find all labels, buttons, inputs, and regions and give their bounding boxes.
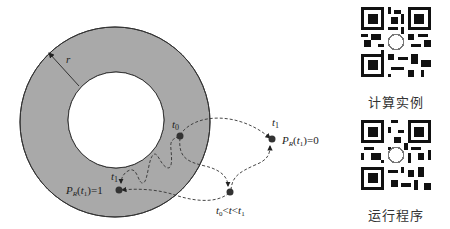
qr-code-run-program[interactable] [361, 120, 431, 190]
qr-label-run-program: 运行程序 [351, 205, 441, 224]
radius-label: r [66, 53, 71, 65]
point-inside-t1 [116, 187, 123, 194]
qr-code-example[interactable] [361, 7, 431, 77]
path-mid-to-outside [231, 146, 270, 190]
prob-outside: PR(t1)=0 [281, 134, 319, 148]
point-t0 [177, 133, 184, 140]
point-outside-t1 [269, 136, 276, 143]
point-mid [227, 189, 234, 196]
label-mid-interval: t0<t<t1 [216, 204, 245, 218]
inner-circle [68, 72, 164, 168]
annulus-diagram: r t0 t1 PR(t1)=0 t1 PR(t1)=1 t0<t<t1 [0, 0, 330, 229]
qr-label-example: 计算实例 [351, 92, 441, 111]
label-outside-t1: t1 [272, 116, 279, 130]
